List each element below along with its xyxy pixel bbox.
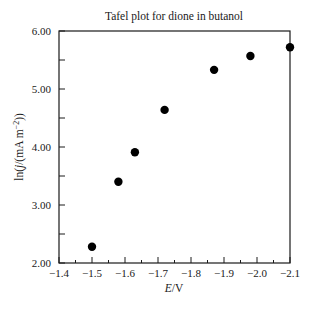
y-tick-label: 3.00 [32, 199, 52, 211]
x-tick-label: −1.4 [49, 267, 69, 279]
chart-title: Tafel plot for dione in butanol [105, 10, 243, 23]
x-tick-label: −1.9 [214, 267, 234, 279]
data-point [246, 52, 254, 60]
y-tick-label: 6.00 [32, 25, 52, 37]
data-point [114, 178, 122, 186]
y-axis-ticks: 2.003.004.005.006.00 [32, 25, 65, 269]
x-tick-label: −2.1 [280, 267, 300, 279]
y-tick-label: 4.00 [32, 141, 52, 153]
data-point [210, 66, 218, 74]
data-point [160, 106, 168, 114]
data-points [88, 43, 294, 251]
tafel-plot: Tafel plot for dione in butanol −1.4−1.5… [0, 0, 314, 309]
x-tick-label: −1.5 [82, 267, 102, 279]
plot-frame [59, 31, 290, 263]
y-tick-label: 2.00 [32, 257, 52, 269]
x-axis-ticks: −1.4−1.5−1.6−1.7−1.8−1.9−2.0−2.1 [49, 257, 300, 279]
x-tick-label: −2.0 [247, 267, 267, 279]
data-point [131, 148, 139, 156]
x-tick-label: −1.7 [148, 267, 168, 279]
x-tick-label: −1.6 [115, 267, 135, 279]
x-axis-label: E/V [164, 282, 184, 294]
x-tick-label: −1.8 [181, 267, 201, 279]
data-point [88, 243, 96, 251]
data-point [286, 43, 294, 51]
y-axis-label: ln(j/(mA m−2)) [12, 113, 26, 181]
y-tick-label: 5.00 [32, 83, 52, 95]
